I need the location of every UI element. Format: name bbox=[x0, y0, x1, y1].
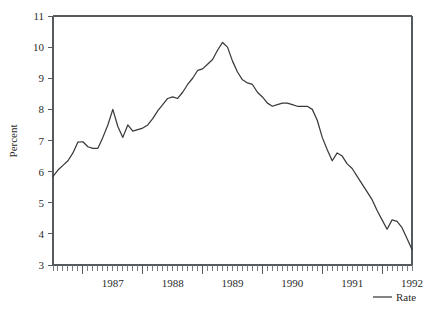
x-tick-label: 1987 bbox=[102, 277, 125, 289]
y-tick-label: 8 bbox=[39, 103, 45, 115]
chart-figure: 34567891011 198719881989199019911992 Per… bbox=[0, 0, 438, 315]
y-tick-label: 10 bbox=[33, 41, 45, 53]
y-tick-label: 5 bbox=[39, 197, 45, 209]
y-tick-label: 7 bbox=[39, 135, 45, 147]
y-tick-label: 6 bbox=[39, 166, 45, 178]
legend-label-rate: Rate bbox=[396, 291, 416, 303]
series-group bbox=[53, 42, 412, 249]
y-tick-label: 4 bbox=[39, 228, 45, 240]
y-tick-label: 9 bbox=[39, 72, 45, 84]
chart-canvas: 34567891011 198719881989199019911992 Per… bbox=[0, 0, 438, 315]
x-axis-year-labels: 198719881989199019911992 bbox=[102, 277, 423, 289]
y-tick-label: 3 bbox=[39, 259, 45, 271]
x-tick-label: 1988 bbox=[162, 277, 185, 289]
x-tick-label: 1989 bbox=[222, 277, 245, 289]
plot-frame bbox=[53, 16, 412, 265]
y-tick-label: 11 bbox=[33, 10, 44, 22]
x-tick-label: 1991 bbox=[341, 277, 363, 289]
y-axis: 34567891011 bbox=[33, 10, 53, 271]
y-axis-title: Percent bbox=[7, 125, 19, 158]
x-tick-label: 1990 bbox=[281, 277, 304, 289]
chart-legend: Rate bbox=[373, 291, 416, 303]
series-line-rate bbox=[53, 42, 412, 249]
x-axis bbox=[53, 265, 412, 274]
x-tick-label: 1992 bbox=[401, 277, 423, 289]
